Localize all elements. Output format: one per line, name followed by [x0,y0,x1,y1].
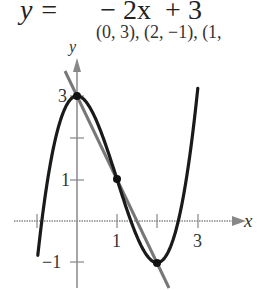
x-tick-label: 1 [112,231,121,251]
point-0-3 [73,92,81,100]
y-axis-arrow-icon [73,58,81,72]
y-tick-label: 1 [61,170,70,190]
y-tick-label: 3 [58,86,67,106]
y-axis-label: y [67,38,77,56]
point-1-1 [113,175,121,183]
graph: x y 1 3 3 1 −1 [0,0,273,290]
point-2-neg1 [153,259,161,267]
x-axis-label: x [243,210,253,231]
x-tick-label: 3 [193,231,202,251]
y-tick-label: −1 [42,252,61,272]
